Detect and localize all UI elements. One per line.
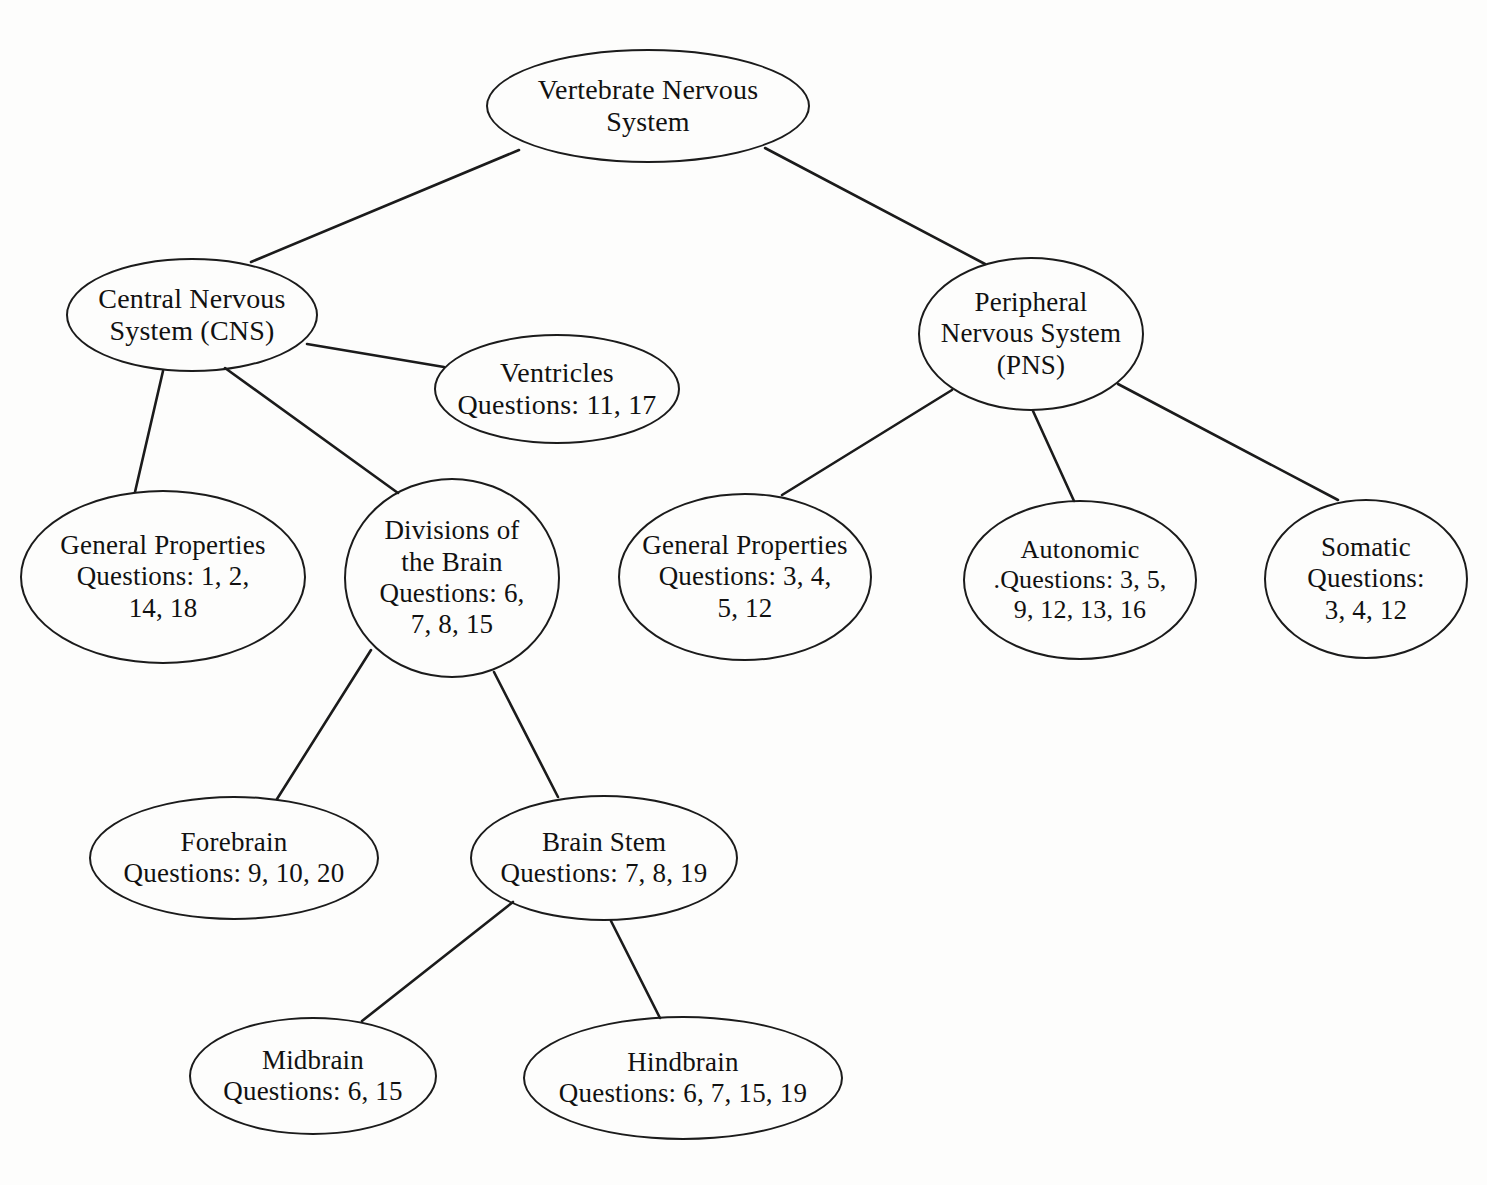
edge-divisions-stem	[494, 672, 558, 797]
node-vertebrate-nervous-system[interactable]: Vertebrate Nervous System	[486, 49, 810, 163]
edge-pns-autonomic	[1033, 411, 1074, 501]
edge-vns-cns	[251, 150, 519, 262]
node-central-nervous-system[interactable]: Central Nervous System (CNS)	[66, 258, 318, 372]
node-peripheral-nervous-system[interactable]: Peripheral Nervous System (PNS)	[918, 257, 1144, 411]
node-label-peripheral-nervous-system: Peripheral Nervous System (PNS)	[939, 287, 1124, 381]
node-label-vertebrate-nervous-system: Vertebrate Nervous System	[536, 74, 761, 139]
node-label-brain-stem: Brain Stem Questions: 7, 8, 19	[498, 827, 709, 890]
edge-divisions-fore	[277, 650, 371, 799]
node-label-divisions-of-the-brain: Divisions of the Brain Questions: 6, 7, …	[377, 515, 526, 640]
edge-cns-general	[135, 371, 163, 492]
edge-cns-divisions	[225, 368, 398, 493]
node-ventricles[interactable]: Ventricles Questions: 11, 17	[434, 334, 680, 444]
edge-stem-midbrain	[362, 902, 513, 1021]
node-label-forebrain: Forebrain Questions: 9, 10, 20	[122, 827, 347, 890]
edge-pns-somatic	[1118, 384, 1338, 500]
node-divisions-of-the-brain[interactable]: Divisions of the Brain Questions: 6, 7, …	[344, 478, 560, 678]
node-label-somatic: Somatic Questions: 3, 4, 12	[1305, 532, 1427, 626]
node-somatic[interactable]: Somatic Questions: 3, 4, 12	[1264, 499, 1468, 659]
node-label-cns-general-properties: General Properties Questions: 1, 2, 14, …	[58, 530, 267, 624]
node-label-ventricles: Ventricles Questions: 11, 17	[455, 357, 658, 422]
node-brain-stem[interactable]: Brain Stem Questions: 7, 8, 19	[470, 795, 738, 921]
node-label-pns-general-properties: General Properties Questions: 3, 4, 5, 1…	[640, 530, 849, 624]
edge-vns-pns	[765, 148, 985, 264]
edge-cns-ventricles	[307, 344, 444, 367]
node-label-midbrain: Midbrain Questions: 6, 15	[221, 1045, 404, 1108]
node-label-central-nervous-system: Central Nervous System (CNS)	[96, 283, 287, 348]
node-pns-general-properties[interactable]: General Properties Questions: 3, 4, 5, 1…	[618, 493, 872, 661]
node-midbrain[interactable]: Midbrain Questions: 6, 15	[189, 1017, 437, 1135]
node-label-hindbrain: Hindbrain Questions: 6, 7, 15, 19	[557, 1047, 809, 1110]
edge-stem-hindbrain	[611, 921, 660, 1018]
concept-map-canvas: Vertebrate Nervous SystemCentral Nervous…	[0, 0, 1487, 1185]
node-hindbrain[interactable]: Hindbrain Questions: 6, 7, 15, 19	[523, 1016, 843, 1140]
node-label-autonomic: Autonomic .Questions: 3, 5, 9, 12, 13, 1…	[991, 535, 1168, 625]
node-autonomic[interactable]: Autonomic .Questions: 3, 5, 9, 12, 13, 1…	[963, 500, 1197, 660]
edge-pns-general	[782, 390, 952, 495]
node-cns-general-properties[interactable]: General Properties Questions: 1, 2, 14, …	[20, 490, 306, 664]
node-forebrain[interactable]: Forebrain Questions: 9, 10, 20	[89, 796, 379, 920]
